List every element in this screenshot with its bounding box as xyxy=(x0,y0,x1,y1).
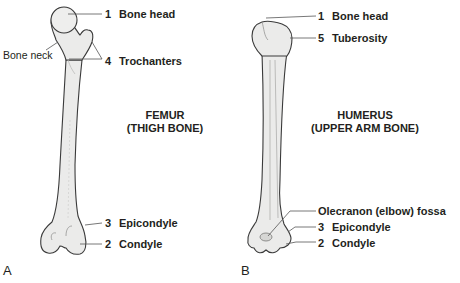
femur-title: FEMUR (THIGH BONE) xyxy=(115,109,215,135)
humerus-label-condyle: 2Condyle xyxy=(318,237,375,249)
humerus-title: HUMERUS (UPPER ARM BONE) xyxy=(310,109,420,135)
humerus-label-tuberosity: 5Tuberosity xyxy=(318,32,387,44)
panel-letter-b: B xyxy=(241,264,250,278)
bone-diagram: 1Bone head Bone neck 4Trochanters FEMUR … xyxy=(0,0,460,283)
femur-label-bone-head: 1Bone head xyxy=(105,8,175,20)
humerus-label-bone-head: 1Bone head xyxy=(318,10,388,22)
femur-label-bone-neck: Bone neck xyxy=(3,49,53,61)
femur-label-condyle: 2Condyle xyxy=(105,238,162,250)
femur-label-trochanters: 4Trochanters xyxy=(105,55,182,67)
femur-label-epicondyle: 3Epicondyle xyxy=(105,217,178,229)
humerus-illustration xyxy=(248,16,316,253)
femur-illustration xyxy=(41,7,102,254)
panel-letter-a: A xyxy=(3,264,12,278)
humerus-label-olecranon-fossa: Olecranon (elbow) fossa xyxy=(318,205,446,217)
humerus-label-epicondyle: 3Epicondyle xyxy=(318,221,391,233)
